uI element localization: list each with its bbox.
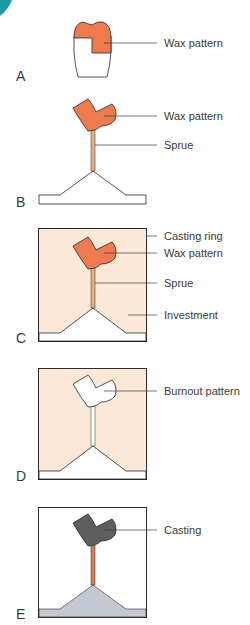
label-sprue: Sprue [164,277,193,289]
sprue [91,545,95,585]
label-wax-pattern: Wax pattern [164,110,223,122]
wax-pattern [73,99,116,131]
lost-wax-casting-diagram: Wax pattern A Wax pattern Sprue B Castin… [0,0,250,625]
sprue-channel [91,406,95,446]
panel-letter: E [16,606,25,622]
label-burnout-pattern: Burnout pattern [164,385,240,397]
label-investment: Investment [164,309,218,321]
panel-letter: D [16,468,26,484]
panel-letter: C [16,330,26,346]
panel-a: Wax pattern A [16,22,223,84]
sprue [91,130,95,171]
crucible-former [39,171,146,204]
label-wax-pattern: Wax pattern [164,37,223,49]
panel-d: Burnout pattern D [16,369,240,485]
panel-letter: A [16,68,26,84]
panel-c: Casting ring Wax pattern Sprue Investmen… [16,229,223,347]
panel-letter: B [16,194,25,210]
label-wax-pattern: Wax pattern [164,247,223,259]
corner-accent [0,0,12,16]
label-sprue: Sprue [164,139,193,151]
panel-e: Casting E [16,508,201,623]
panel-b: Wax pattern Sprue B [16,99,223,210]
sprue [91,268,95,308]
label-casting-ring: Casting ring [164,230,223,242]
label-casting: Casting [164,524,201,536]
